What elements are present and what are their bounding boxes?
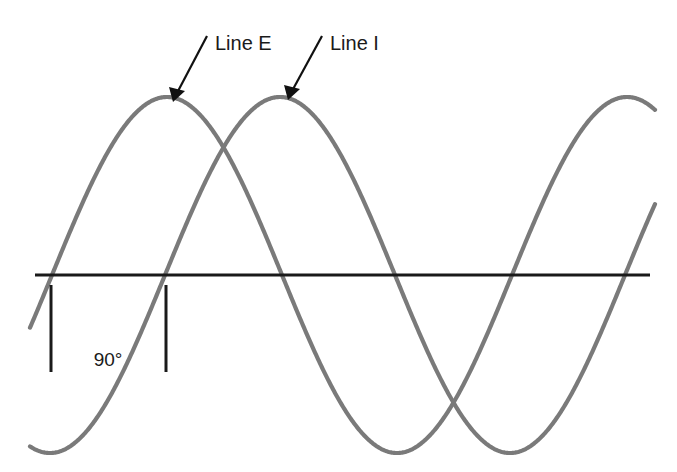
- line-e-label: Line E: [215, 32, 272, 54]
- figure-container: 90° Line E Line I: [0, 0, 677, 472]
- phase-angle-label: 90°: [94, 349, 123, 370]
- line-i-label: Line I: [330, 32, 379, 54]
- phase-shift-diagram: 90° Line E Line I: [0, 0, 677, 472]
